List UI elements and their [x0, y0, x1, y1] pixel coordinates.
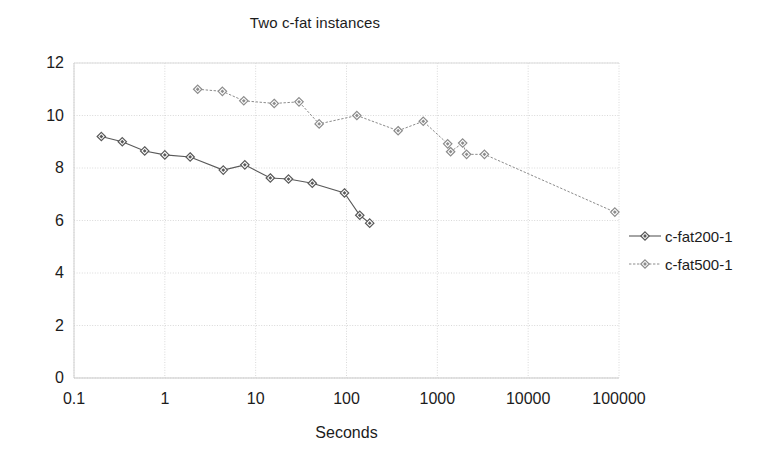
x-tick-label: 0.1 [63, 390, 85, 408]
y-tick-label: 2 [55, 317, 64, 335]
legend-label: c-fat200-1 [665, 229, 733, 244]
legend-item-c-fat200-1[interactable]: c-fat200-1 [628, 222, 733, 250]
y-tick-label: 6 [55, 212, 64, 230]
y-tick-label: 10 [46, 107, 64, 125]
gridlines [74, 63, 619, 378]
x-tick-label: 10000 [506, 390, 551, 408]
x-tick-label: 10 [247, 390, 265, 408]
x-tick-label: 100000 [592, 390, 645, 408]
y-tick-label: 4 [55, 264, 64, 282]
y-tick-label: 12 [46, 54, 64, 72]
x-tick-label: 1 [160, 390, 169, 408]
legend-marker-icon [628, 229, 662, 243]
series-layer [97, 85, 619, 227]
chart-container: Two c-fat instances 024681012 0.11101001… [0, 0, 776, 465]
chart-legend: c-fat200-1c-fat500-1 [628, 222, 733, 278]
legend-label: c-fat500-1 [665, 257, 733, 272]
y-tick-label: 0 [55, 369, 64, 387]
legend-item-c-fat500-1[interactable]: c-fat500-1 [628, 250, 733, 278]
y-tick-label: 8 [55, 159, 64, 177]
series-c-fat200-1 [97, 132, 374, 227]
x-tick-label: 100 [333, 390, 360, 408]
series-c-fat500-1 [193, 85, 619, 216]
x-axis-title: Seconds [74, 424, 619, 442]
legend-marker-icon [628, 257, 662, 271]
x-tick-label: 1000 [420, 390, 456, 408]
